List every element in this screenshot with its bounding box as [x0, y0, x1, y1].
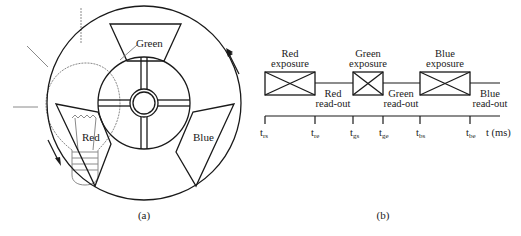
- readout-label-green-2: read-out: [384, 98, 419, 109]
- exposure-label-green-2: exposure: [349, 58, 387, 69]
- figure: Green Red Blue (a) Red exposure Green ex…: [0, 0, 521, 236]
- tick-label-tre: tre: [311, 127, 319, 140]
- timing-diagram: Red exposure Green exposure Blue exposur…: [260, 48, 511, 222]
- blue-filter-segment: [176, 104, 234, 186]
- tick-label-tgs: tgs: [350, 127, 359, 140]
- wheel-inner-disc: [98, 57, 190, 149]
- rotation-arrow-right-icon: [226, 48, 239, 74]
- tick-label-trs: trs: [260, 127, 268, 140]
- light-bulb-icon: [13, 8, 120, 185]
- rotation-arrow-left-icon: [48, 140, 61, 166]
- readout-label-blue-2: read-out: [473, 98, 508, 109]
- readout-label-red-2: read-out: [316, 98, 351, 109]
- tick-label-tge: tge: [379, 127, 389, 140]
- tick-label-tbe: tbe: [466, 127, 476, 140]
- time-axis-ticks: [265, 116, 470, 124]
- exposure-label-blue-2: exposure: [426, 58, 464, 69]
- caption-a: (a): [138, 209, 151, 222]
- wheel-hub-outer: [130, 89, 158, 117]
- wheel-hub-inner: [133, 92, 155, 114]
- exposure-box-green: [353, 72, 383, 95]
- exposure-box-red: [265, 72, 315, 95]
- wheel-outer-rim: [47, 6, 241, 200]
- time-axis-label: t (ms): [486, 127, 511, 139]
- color-wheel-diagram: Green Red Blue (a): [13, 6, 241, 222]
- exposure-label-red-2: exposure: [271, 58, 309, 69]
- segment-label-green: Green: [136, 37, 163, 49]
- segment-label-blue: Blue: [193, 131, 214, 143]
- tick-label-tbs: tbs: [416, 127, 425, 140]
- segment-label-red: Red: [82, 131, 100, 143]
- caption-b: (b): [377, 209, 390, 222]
- exposure-box-blue: [420, 72, 470, 95]
